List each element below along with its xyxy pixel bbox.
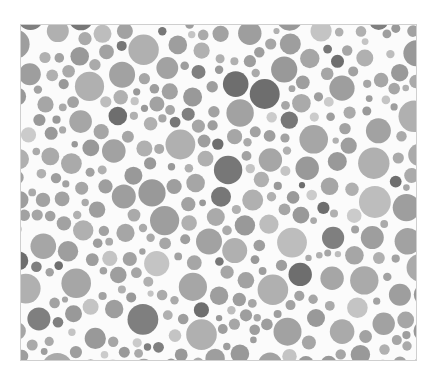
dot: [316, 252, 323, 259]
dot: [300, 49, 319, 68]
dot: [31, 261, 42, 272]
dot: [281, 111, 298, 128]
dot: [226, 99, 253, 126]
dot: [302, 336, 316, 350]
dot: [348, 66, 358, 76]
dot: [251, 255, 260, 264]
dot-plate-image: [20, 24, 417, 361]
dot: [320, 267, 343, 290]
dot: [21, 350, 28, 361]
dot: [242, 190, 263, 211]
dot: [286, 300, 296, 310]
dot: [329, 76, 354, 101]
dot: [356, 26, 367, 37]
dot: [68, 329, 75, 336]
dot: [139, 73, 150, 84]
dot: [391, 103, 398, 110]
dot: [391, 25, 400, 33]
dot: [298, 356, 314, 361]
dot: [169, 329, 182, 342]
dot: [82, 140, 99, 157]
dot: [347, 208, 362, 223]
dot: [182, 108, 195, 121]
dot: [109, 107, 128, 126]
dot: [104, 360, 122, 362]
dot: [393, 194, 417, 221]
dot: [62, 65, 75, 78]
dot: [28, 189, 36, 197]
dot: [94, 124, 109, 139]
dot: [180, 234, 190, 244]
dot: [216, 54, 225, 63]
dot: [280, 33, 301, 54]
dot: [397, 312, 414, 329]
dot: [69, 110, 92, 133]
dot: [215, 257, 224, 266]
dot: [188, 31, 195, 38]
dot: [359, 330, 372, 343]
dot: [94, 25, 112, 43]
dot: [386, 50, 394, 58]
dot: [259, 267, 267, 275]
dot: [345, 183, 358, 196]
dot: [41, 148, 59, 166]
dot: [27, 307, 50, 330]
dot: [21, 252, 28, 270]
dot: [144, 157, 156, 169]
dot: [299, 125, 328, 154]
dot: [267, 192, 276, 201]
dot: [100, 267, 108, 275]
dot: [379, 344, 389, 354]
dot: [131, 267, 142, 278]
dot: [109, 62, 135, 88]
dot: [232, 205, 241, 214]
dot: [331, 55, 344, 68]
dot: [174, 253, 182, 261]
dot: [131, 97, 139, 105]
dot: [86, 253, 99, 266]
dot: [157, 290, 168, 301]
dot: [317, 202, 329, 214]
dot: [181, 197, 195, 211]
dot: [322, 227, 344, 249]
dot: [307, 309, 325, 327]
dot: [170, 117, 181, 128]
dot: [175, 349, 188, 362]
dot: [273, 28, 279, 34]
dot: [265, 38, 276, 49]
dot: [144, 117, 158, 131]
dot: [62, 296, 68, 302]
dot: [344, 107, 356, 119]
dot: [310, 113, 319, 122]
dot: [311, 25, 332, 42]
dot: [238, 272, 255, 289]
dot: [21, 63, 41, 85]
dot: [330, 209, 338, 217]
dot: [83, 359, 99, 361]
dot: [289, 263, 312, 286]
dot: [403, 184, 410, 191]
dot: [128, 209, 141, 222]
dot: [218, 324, 228, 334]
dot: [150, 84, 160, 94]
dot: [323, 45, 332, 54]
dot: [383, 273, 391, 281]
dot: [324, 97, 334, 107]
dot: [394, 357, 407, 362]
dot: [264, 130, 276, 142]
dot: [144, 251, 169, 276]
dot: [222, 226, 232, 236]
dot: [299, 182, 305, 188]
dot: [133, 88, 140, 95]
dot: [21, 30, 30, 59]
dot: [128, 304, 159, 335]
dot: [321, 356, 337, 361]
dot: [216, 315, 222, 321]
dot: [339, 123, 350, 134]
dot: [130, 112, 138, 120]
dot: [246, 164, 255, 173]
dot: [153, 342, 164, 353]
dot: [254, 314, 261, 321]
dot: [185, 164, 194, 173]
dot: [192, 120, 205, 133]
